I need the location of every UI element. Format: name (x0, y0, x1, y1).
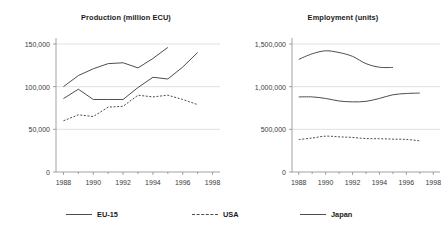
legend-label-japan: Japan (331, 211, 352, 218)
y-axis-tick-label: 500,000 (228, 126, 286, 133)
series-line-eu-15 (63, 47, 167, 86)
legend-line-icon-usa (192, 214, 218, 216)
production-chart-panel: Production (million ECU) 050,000100,0001… (0, 0, 228, 200)
employment-chart-panel: Employment (units) 0500,0001,000,0001,50… (228, 0, 448, 200)
legend-label-eu15: EU-15 (97, 211, 118, 218)
x-axis-tick-label: 1998 (425, 179, 441, 186)
x-axis-tick-label: 1992 (115, 179, 131, 186)
chart-legend: EU-15 USA Japan (0, 200, 448, 233)
series-line-japan (63, 53, 197, 100)
series-line-japan (299, 51, 393, 68)
series-line-eu-15 (299, 93, 420, 102)
y-axis-tick-label: 1,000,000 (228, 83, 286, 90)
legend-item-eu15: EU-15 (66, 208, 118, 222)
x-axis-tick-label: 1990 (85, 179, 101, 186)
x-axis-tick-label: 1994 (145, 179, 161, 186)
x-axis-tick-label: 1990 (318, 179, 334, 186)
y-axis-tick-label: 1,500,000 (228, 41, 286, 48)
chart-figure: Production (million ECU) 050,000100,0001… (0, 0, 448, 233)
x-axis-tick-label: 1996 (175, 179, 191, 186)
y-axis-tick-label: 0 (228, 169, 286, 176)
series-line-usa (299, 136, 420, 141)
x-axis-tick-label: 1988 (291, 179, 307, 186)
y-axis-tick-label: 150,000 (0, 41, 50, 48)
y-axis-tick-label: 100,000 (0, 83, 50, 90)
legend-label-usa: USA (223, 211, 239, 218)
series-line-usa (63, 95, 197, 121)
legend-item-usa: USA (192, 208, 239, 222)
y-axis-tick-label: 0 (0, 169, 50, 176)
legend-line-icon-japan (300, 214, 326, 216)
legend-line-icon-eu15 (66, 214, 92, 216)
x-axis-tick-label: 1988 (56, 179, 72, 186)
x-axis-tick-label: 1998 (205, 179, 221, 186)
x-axis-tick-label: 1992 (345, 179, 361, 186)
x-axis-tick-label: 1996 (399, 179, 415, 186)
x-axis-tick-label: 1994 (372, 179, 388, 186)
y-axis-tick-label: 50,000 (0, 126, 50, 133)
legend-item-japan: Japan (300, 208, 352, 222)
